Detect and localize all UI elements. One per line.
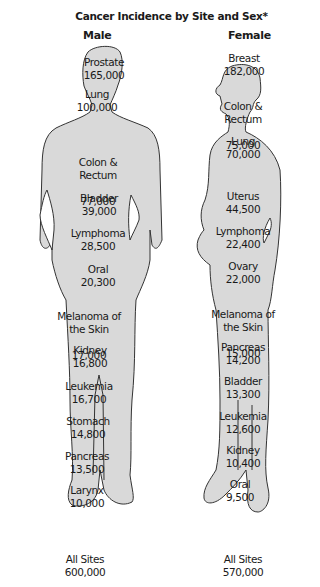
female-total: All Sites 570,000 <box>223 553 264 579</box>
site-name: Colon & Rectum <box>79 156 117 182</box>
site-name: Ovary <box>226 260 260 273</box>
site-count: 13,300 <box>224 388 262 401</box>
site-name: Prostate <box>84 56 125 69</box>
site-count: 16,700 <box>65 393 112 406</box>
male-site-stomach: Stomach 14,800 <box>66 415 110 441</box>
site-count: 14,800 <box>66 428 110 441</box>
male-total: All Sites 600,000 <box>65 553 106 579</box>
female-site-ovary: Ovary 22,000 <box>226 260 260 286</box>
female-site-leukemia: Leukemia 12,600 <box>219 410 266 436</box>
female-site-kidney: Kidney 10,400 <box>226 444 260 470</box>
total-count: 600,000 <box>65 566 106 579</box>
site-name: Stomach <box>66 415 110 428</box>
male-site-larynx: Larynx 10,000 <box>70 484 104 510</box>
male-site-lymphoma: Lymphoma 28,500 <box>71 227 126 253</box>
site-count: 10,400 <box>226 457 260 470</box>
site-name: Kidney <box>226 444 260 457</box>
site-name: Uterus <box>226 190 260 203</box>
female-site-lung: Lung 70,000 <box>226 135 260 161</box>
site-count: 14,200 <box>221 354 265 367</box>
site-count: 22,000 <box>226 273 260 286</box>
site-count: 9,500 <box>226 491 254 504</box>
total-label: All Sites <box>223 553 264 566</box>
site-name: Bladder <box>80 192 118 205</box>
total-label: All Sites <box>65 553 106 566</box>
site-count: 165,000 <box>84 69 125 82</box>
site-count: 16,800 <box>73 357 107 370</box>
female-site-oral: Oral 9,500 <box>226 478 254 504</box>
site-count: 10,000 <box>70 497 104 510</box>
male-site-bladder: Bladder 39,000 <box>80 192 118 218</box>
site-count: 70,000 <box>226 148 260 161</box>
site-name: Oral <box>226 478 254 491</box>
site-name: Lung <box>226 135 260 148</box>
site-name: Bladder <box>224 375 262 388</box>
male-site-prostate: Prostate 165,000 <box>84 56 125 82</box>
site-name: Lung <box>77 88 118 101</box>
site-name: Pancreas <box>221 341 265 354</box>
site-name: Pancreas <box>65 450 109 463</box>
female-site-uterus: Uterus 44,500 <box>226 190 260 216</box>
site-name: Lymphoma <box>216 225 271 238</box>
male-site-oral: Oral 20,300 <box>81 263 115 289</box>
female-site-bladder: Bladder 13,300 <box>224 375 262 401</box>
male-site-leukemia: Leukemia 16,700 <box>65 380 112 406</box>
male-site-kidney: Kidney 16,800 <box>73 344 107 370</box>
site-name: Melanoma of the Skin <box>211 308 275 334</box>
site-name: Breast <box>224 52 265 65</box>
site-count: 13,500 <box>65 463 109 476</box>
site-name: Leukemia <box>65 380 112 393</box>
site-name: Kidney <box>73 344 107 357</box>
site-count: 100,000 <box>77 101 118 114</box>
male-site-pancreas: Pancreas 13,500 <box>65 450 109 476</box>
site-name: Colon & Rectum <box>224 100 262 126</box>
site-name: Oral <box>81 263 115 276</box>
site-count: 12,600 <box>219 423 266 436</box>
site-count: 22,400 <box>216 238 271 251</box>
male-site-lung: Lung 100,000 <box>77 88 118 114</box>
site-name: Lymphoma <box>71 227 126 240</box>
site-count: 182,000 <box>224 65 265 78</box>
site-count: 20,300 <box>81 276 115 289</box>
site-name: Leukemia <box>219 410 266 423</box>
female-site-breast: Breast 182,000 <box>224 52 265 78</box>
total-count: 570,000 <box>223 566 264 579</box>
site-count: 28,500 <box>71 240 126 253</box>
female-site-lymphoma: Lymphoma 22,400 <box>216 225 271 251</box>
site-name: Melanoma of the Skin <box>57 310 121 336</box>
site-count: 44,500 <box>226 203 260 216</box>
female-site-pancreas: Pancreas 14,200 <box>221 341 265 367</box>
site-count: 39,000 <box>80 205 118 218</box>
site-name: Larynx <box>70 484 104 497</box>
